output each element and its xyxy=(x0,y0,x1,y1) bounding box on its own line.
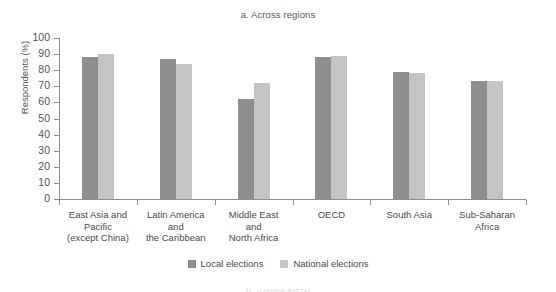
bar-national xyxy=(98,54,114,199)
category-label-line: East Asia and xyxy=(59,209,137,221)
x-axis-tick xyxy=(448,200,449,205)
bar-local xyxy=(238,99,254,199)
x-axis-category-label: Latin Americaandthe Caribbean xyxy=(137,209,215,244)
y-axis-tick-label: 70 xyxy=(0,79,50,91)
category-label-line: Middle East xyxy=(215,209,293,221)
category-label-line: South Asia xyxy=(370,209,448,221)
bar-national xyxy=(254,83,270,199)
category-label-line: the Caribbean xyxy=(137,232,215,244)
figure-panel-a: a. Across regions Respondents (%) 100908… xyxy=(0,0,556,292)
bar-national xyxy=(487,81,503,199)
x-axis-category-label: OECD xyxy=(293,209,371,221)
category-label-line: (except China) xyxy=(59,232,137,244)
y-axis-tick-label: 10 xyxy=(0,176,50,188)
y-axis-tick-label: 0 xyxy=(0,192,50,204)
bar-national xyxy=(409,73,425,199)
y-axis-tick-label: 90 xyxy=(0,47,50,59)
category-label-line: Africa xyxy=(448,221,526,233)
x-axis-tick xyxy=(215,200,216,205)
y-axis-tick-label: 100 xyxy=(0,31,50,43)
legend-label: National elections xyxy=(293,258,368,269)
x-axis-tick xyxy=(59,200,60,205)
plot-area xyxy=(59,38,526,199)
y-axis-tick-label: 20 xyxy=(0,160,50,172)
x-axis-tick xyxy=(293,200,294,205)
x-axis-category-label: Middle EastandNorth Africa xyxy=(215,209,293,244)
bar-local xyxy=(393,72,409,199)
page-title: a. Across regions xyxy=(0,9,556,20)
x-axis-category-label: Sub-SaharanAfrica xyxy=(448,209,526,232)
y-axis-tick-label: 80 xyxy=(0,63,50,75)
y-axis-tick-label: 50 xyxy=(0,112,50,124)
bar-local xyxy=(315,57,331,199)
bar-local xyxy=(471,81,487,199)
bar-national xyxy=(176,64,192,199)
legend-label: Local elections xyxy=(201,258,264,269)
category-label-line: Latin America xyxy=(137,209,215,221)
legend-item[interactable]: Local elections xyxy=(188,258,264,269)
bar-local xyxy=(82,57,98,199)
category-label-line: and xyxy=(137,221,215,233)
category-label-line: Sub-Saharan xyxy=(448,209,526,221)
y-axis-tick-label: 40 xyxy=(0,128,50,140)
x-axis-tick xyxy=(137,200,138,205)
bar-national xyxy=(331,56,347,199)
category-label-line: OECD xyxy=(293,209,371,221)
legend: Local electionsNational elections xyxy=(0,258,556,269)
x-axis-tick xyxy=(370,200,371,205)
legend-item[interactable]: National elections xyxy=(280,258,368,269)
y-axis-tick-label: 30 xyxy=(0,144,50,156)
legend-swatch-icon xyxy=(188,260,196,268)
x-axis-category-label: South Asia xyxy=(370,209,448,221)
category-label-line: North Africa xyxy=(215,232,293,244)
category-label-line: and xyxy=(215,221,293,233)
legend-swatch-icon xyxy=(280,260,288,268)
x-axis-category-label: East Asia andPacific(except China) xyxy=(59,209,137,244)
x-axis-tick xyxy=(526,200,527,205)
category-label-line: Pacific xyxy=(59,221,137,233)
y-axis-tick-label: 60 xyxy=(0,95,50,107)
bar-local xyxy=(160,59,176,199)
next-panel-title-clipped: b. Across NEW xyxy=(0,286,556,292)
